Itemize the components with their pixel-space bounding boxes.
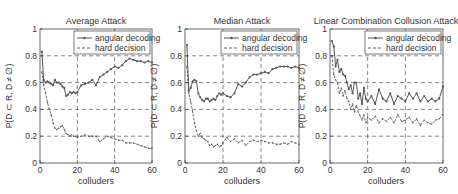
x-tick-label: 20	[218, 165, 228, 175]
y-tick-label: 0.4	[170, 104, 182, 114]
x-tick-label: 20	[73, 165, 83, 175]
x-axis-label: colluders	[78, 176, 115, 186]
x-tick-label: 40	[401, 165, 411, 175]
legend: angular decodinghard decision	[74, 31, 160, 54]
y-tick-label: 0.4	[315, 104, 327, 114]
y-tick-label: 0.6	[25, 78, 37, 88]
panel-median-attack: Median Attack colluders P(D ⊂ R, D ≠ ∅) …	[149, 16, 307, 186]
legend: angular decodinghard decision	[221, 31, 307, 54]
y-tick-label: 0.2	[25, 131, 37, 141]
legend-label-hard: hard decision	[386, 43, 437, 53]
y-tick-label: 1	[322, 24, 327, 34]
y-tick-label: 0.8	[170, 51, 182, 61]
legend-label-hard: hard decision	[95, 43, 146, 53]
series-hard-decision	[331, 55, 444, 126]
series-angular-decoding	[41, 51, 153, 97]
y-tick-label: 0.4	[25, 104, 37, 114]
y-axis-label: P(D ⊂ R, D ≠ ∅)	[297, 64, 307, 129]
panel-average-attack: Average Attack colluders P(D ⊂ R, D ≠ ∅)…	[4, 16, 160, 186]
panel-title: Linear Combination Collusion Attack	[314, 16, 458, 26]
series-hard-decision	[186, 66, 299, 148]
y-tick-label: 0	[177, 158, 182, 168]
x-axis-label: colluders	[368, 176, 405, 186]
x-tick-label: 40	[256, 165, 266, 175]
legend-label-hard: hard decision	[242, 43, 293, 53]
panel-title: Average Attack	[66, 16, 127, 26]
y-tick-label: 1	[32, 24, 37, 34]
panel-title: Median Attack	[214, 16, 271, 26]
legend: angular decodinghard decision	[365, 31, 451, 54]
y-tick-label: 0.6	[170, 78, 182, 88]
y-axis-label: P(D ⊂ R, D ≠ ∅)	[149, 64, 159, 129]
x-tick-label: 20	[363, 165, 373, 175]
y-tick-label: 0.6	[315, 78, 327, 88]
x-axis-label: colluders	[224, 176, 261, 186]
x-tick-label: 40	[110, 165, 120, 175]
y-tick-label: 1	[177, 24, 182, 34]
chart-canvas: Average Attack colluders P(D ⊂ R, D ≠ ∅)…	[0, 0, 458, 194]
x-tick-label: 0	[38, 165, 43, 175]
y-tick-label: 0.8	[315, 51, 327, 61]
figure: Average Attack colluders P(D ⊂ R, D ≠ ∅)…	[0, 0, 458, 194]
y-tick-label: 0	[32, 158, 37, 168]
legend-label-angular: angular decoding	[242, 33, 307, 43]
legend-label-angular: angular decoding	[95, 33, 160, 43]
y-axis-label: P(D ⊂ R, D ≠ ∅)	[4, 64, 14, 129]
x-tick-label: 60	[294, 165, 304, 175]
legend-label-angular: angular decoding	[386, 33, 451, 43]
x-tick-label: 0	[328, 165, 333, 175]
y-tick-label: 0.8	[25, 51, 37, 61]
y-tick-label: 0	[322, 158, 327, 168]
x-tick-label: 60	[147, 165, 157, 175]
panel-linear-combination-attack: Linear Combination Collusion Attack coll…	[297, 16, 458, 186]
y-tick-label: 0.2	[170, 131, 182, 141]
y-tick-label: 0.2	[315, 131, 327, 141]
x-tick-label: 0	[183, 165, 188, 175]
x-tick-label: 60	[438, 165, 448, 175]
